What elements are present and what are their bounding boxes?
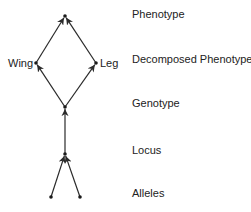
node-label-wing: Wing bbox=[8, 57, 33, 69]
level-label-phenotype: Phenotype bbox=[132, 8, 185, 20]
level-label-alleles: Alleles bbox=[132, 187, 164, 199]
level-label-genotype: Genotype bbox=[132, 97, 180, 109]
edge-allele_2-to-locus bbox=[66, 156, 80, 197]
node-allele-1 bbox=[49, 195, 53, 199]
genotype-phenotype-diagram bbox=[0, 0, 251, 212]
edge-wing-to-phenotype bbox=[36, 18, 64, 63]
node-leg bbox=[94, 61, 98, 65]
level-label-locus: Locus bbox=[132, 144, 161, 156]
nodes bbox=[34, 14, 98, 199]
level-label-decomposed-phenotype: Decomposed Phenotype bbox=[132, 53, 251, 65]
node-phenotype bbox=[63, 14, 67, 18]
node-allele-2 bbox=[78, 195, 82, 199]
edge-leg-to-phenotype bbox=[66, 18, 96, 63]
edge-allele_1-to-locus bbox=[51, 156, 64, 197]
node-genotype bbox=[63, 105, 67, 109]
node-locus bbox=[63, 152, 67, 156]
node-label-leg: Leg bbox=[100, 57, 118, 69]
node-wing bbox=[34, 61, 38, 65]
edge-genotype-to-wing bbox=[37, 65, 65, 107]
edge-genotype-to-leg bbox=[65, 65, 95, 107]
